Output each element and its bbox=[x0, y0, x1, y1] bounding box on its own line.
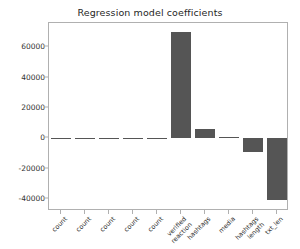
x-tick-label-text: count bbox=[122, 215, 141, 234]
bar bbox=[123, 138, 142, 139]
x-tick-mark bbox=[156, 210, 157, 214]
y-tick-label: -40000 bbox=[18, 193, 45, 202]
x-tick-mark bbox=[60, 210, 61, 214]
y-tick-label: 20000 bbox=[21, 102, 45, 111]
bar bbox=[75, 138, 94, 139]
x-tick-label-text: count bbox=[50, 215, 69, 234]
x-tick-label-text: txt_len bbox=[263, 215, 284, 236]
x-tick-mark bbox=[180, 210, 181, 214]
x-tick-mark bbox=[276, 210, 277, 214]
bar bbox=[99, 138, 118, 139]
x-tick-label-text: media bbox=[217, 215, 237, 235]
x-tick-mark bbox=[228, 210, 229, 214]
x-tick-label-text: hashtagslength bbox=[234, 215, 266, 247]
x-tick-mark bbox=[204, 210, 205, 214]
y-tick-label: 60000 bbox=[21, 42, 45, 51]
bar bbox=[171, 32, 190, 138]
page-title: Regression model coefficients bbox=[0, 7, 300, 18]
bar bbox=[243, 138, 262, 152]
bar bbox=[147, 138, 166, 139]
x-tick-mark bbox=[132, 210, 133, 214]
bars-layer bbox=[49, 23, 287, 209]
x-tick-mark bbox=[252, 210, 253, 214]
bar bbox=[51, 138, 70, 139]
y-tick-label: 40000 bbox=[21, 72, 45, 81]
x-tick-label-text: count bbox=[146, 215, 165, 234]
plot-area bbox=[48, 22, 288, 210]
x-tick-label-text: count bbox=[98, 215, 117, 234]
bar bbox=[219, 137, 238, 138]
bar bbox=[267, 138, 286, 200]
bar bbox=[195, 129, 214, 138]
y-tick-label: -20000 bbox=[18, 163, 45, 172]
matplotlib-figure: Regression model coefficients 6000040000… bbox=[0, 0, 300, 249]
x-tick-mark bbox=[84, 210, 85, 214]
x-tick-label-text: count bbox=[74, 215, 93, 234]
x-tick-mark bbox=[108, 210, 109, 214]
